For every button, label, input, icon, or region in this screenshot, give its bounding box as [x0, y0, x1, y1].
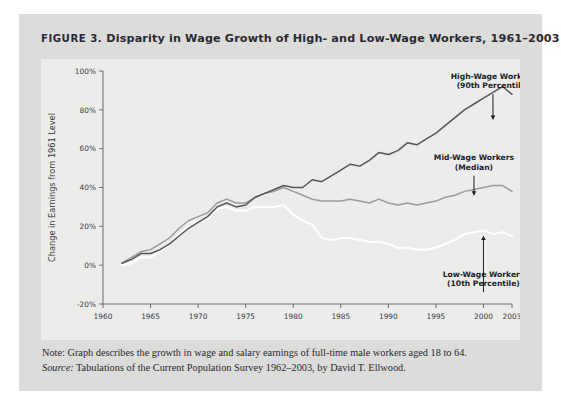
x-tick-label: 1965	[141, 312, 160, 321]
source-line: Source: Tabulations of the Current Popul…	[42, 361, 520, 376]
series-line-mid-wage	[122, 186, 512, 264]
x-axis-ticks: 1960196519701975198019851990199520002003	[94, 304, 520, 321]
y-tick-label: 100%	[75, 67, 96, 76]
note-label: Note:	[42, 347, 65, 358]
x-tick-label: 1970	[189, 312, 208, 321]
annotation-label: Low-Wage Workers	[443, 270, 520, 279]
y-tick-label: 40%	[80, 183, 96, 192]
x-tick-label: 1985	[331, 312, 350, 321]
x-tick-label: 2000	[474, 312, 493, 321]
x-tick-label: 1980	[284, 312, 303, 321]
chart-plot-area: -20%0%20%40%60%80%100% 19601965197019751…	[41, 59, 520, 340]
y-tick-label: 60%	[80, 144, 96, 153]
y-tick-label: 80%	[80, 106, 96, 115]
note-text: Graph describes the growth in wage and s…	[65, 347, 467, 358]
page-title: FIGURE 3. Disparity in Wage Growth of Hi…	[41, 32, 521, 45]
annotation-arrow-icon	[472, 191, 477, 195]
figure-title-text: Disparity in Wage Growth of High- and Lo…	[106, 32, 559, 45]
x-tick-label: 2003	[503, 312, 520, 321]
y-tick-label: 0%	[84, 261, 96, 270]
series-annotations: High-Wage Workers(90th Percentile)Mid-Wa…	[434, 72, 520, 292]
source-text: Tabulations of the Current Population Su…	[74, 362, 406, 373]
data-series-group	[122, 87, 512, 266]
x-tick-label: 1990	[379, 312, 398, 321]
figure-label: FIGURE 3.	[41, 33, 102, 44]
figure-footnotes: Note: Graph describes the growth in wage…	[42, 346, 520, 375]
x-tick-label: 1960	[94, 312, 113, 321]
y-tick-label: 20%	[80, 222, 96, 231]
annotation-label: Mid-Wage Workers	[434, 153, 515, 162]
y-axis-ticks: -20%0%20%40%60%80%100%	[75, 67, 103, 309]
annotation-label: (Median)	[455, 163, 493, 172]
annotation-label: (90th Percentile)	[457, 81, 520, 90]
wage-growth-line-chart: -20%0%20%40%60%80%100% 19601965197019751…	[41, 59, 520, 340]
y-tick-label: -20%	[77, 300, 96, 309]
annotation-arrow-icon	[481, 236, 486, 240]
note-line: Note: Graph describes the growth in wage…	[42, 346, 520, 361]
x-tick-label: 1995	[427, 312, 446, 321]
figure-card: FIGURE 3. Disparity in Wage Growth of Hi…	[19, 14, 542, 391]
annotation-label: High-Wage Workers	[451, 72, 520, 81]
annotation-arrow-icon	[491, 115, 496, 119]
series-line-high-wage	[122, 87, 512, 264]
source-label: Source:	[42, 362, 74, 373]
y-axis-title: Change in Earnings from 1961 Level	[47, 113, 57, 262]
x-tick-label: 1975	[236, 312, 255, 321]
